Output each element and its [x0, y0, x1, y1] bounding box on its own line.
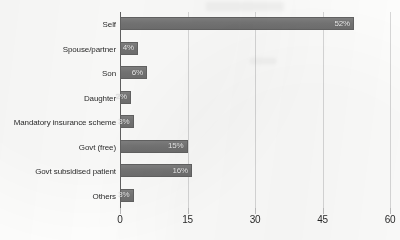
- category-label: Govt subsidised patient: [35, 167, 116, 176]
- x-tick-label: 60: [385, 214, 396, 225]
- bar: 4%: [120, 42, 138, 55]
- bar-row: 15%: [120, 140, 390, 153]
- bar-row: 52%: [120, 17, 390, 30]
- bar: 6%: [120, 66, 147, 79]
- x-tick-label: 45: [317, 214, 328, 225]
- category-label: Spouse/partner: [63, 44, 116, 53]
- bar-value-label: 3%: [118, 118, 132, 126]
- bar-chart: 52%4%6%2%3%15%16%3% SelfSpouse/partnerSo…: [0, 0, 400, 240]
- bar: 16%: [120, 164, 192, 177]
- bar-row: 4%: [120, 42, 390, 55]
- bar-value-label: 52%: [335, 20, 353, 28]
- bar-rows: 52%4%6%2%3%15%16%3%: [120, 12, 390, 208]
- plot-area: 52%4%6%2%3%15%16%3%: [120, 12, 390, 208]
- x-tick-label: 0: [117, 214, 122, 225]
- bar: 3%: [120, 189, 134, 202]
- category-label: Daughter: [84, 93, 116, 102]
- bar-value-label: 4%: [123, 44, 137, 52]
- bar-row: 2%: [120, 91, 390, 104]
- gridline: [390, 12, 391, 208]
- bar-value-label: 3%: [118, 191, 132, 199]
- bar-value-label: 2%: [116, 93, 130, 101]
- bar-row: 3%: [120, 189, 390, 202]
- x-tick-label: 30: [250, 214, 261, 225]
- bar-row: 6%: [120, 66, 390, 79]
- category-label: Self: [103, 20, 116, 29]
- bar: 15%: [120, 140, 188, 153]
- category-label: Govt (free): [79, 142, 116, 151]
- bar: 2%: [120, 91, 131, 104]
- scan-artifact: [206, 2, 284, 11]
- x-tick-label: 15: [182, 214, 193, 225]
- category-label: Others: [93, 191, 116, 200]
- bar-row: 16%: [120, 164, 390, 177]
- bar-value-label: 16%: [173, 167, 191, 175]
- category-label: Son: [102, 69, 116, 78]
- bar: 52%: [120, 17, 354, 30]
- bar-row: 3%: [120, 115, 390, 128]
- bar-value-label: 15%: [168, 142, 186, 150]
- bar-value-label: 6%: [132, 69, 146, 77]
- bar: 3%: [120, 115, 134, 128]
- category-label: Mandatory insurance scheme: [14, 118, 116, 127]
